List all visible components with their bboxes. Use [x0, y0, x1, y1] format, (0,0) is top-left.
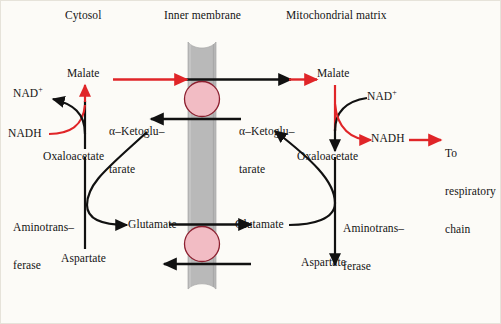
- respiratory-chain-line2: respiratory: [445, 185, 496, 198]
- matrix-label-nad-plus: NAD+: [367, 89, 397, 103]
- cytosol-label-aspartate: Aspartate: [61, 252, 106, 265]
- cytosol-nadh-curve: [49, 105, 85, 134]
- compartment-label-mitochondrial-matrix: Mitochondrial matrix: [286, 9, 387, 22]
- diagram-canvas: Cytosol Inner membrane Mitochondrial mat…: [0, 0, 501, 324]
- matrix-nad-plus-curve: [335, 98, 367, 131]
- matrix-nadh-curve: [335, 104, 371, 140]
- matrix-label-aminotransferase: Aminotrans– ferase: [343, 197, 404, 298]
- compartment-label-cytosol: Cytosol: [65, 9, 102, 22]
- respiratory-chain-line3: chain: [445, 223, 496, 236]
- matrix-label-glutamate: Glutamate: [235, 218, 284, 231]
- cytosol-label-malate: Malate: [67, 67, 100, 80]
- glutamate-aspartate-transporter: [185, 227, 220, 262]
- matrix-akg-line1: α–Ketoglu–: [239, 125, 295, 138]
- respiratory-chain-label: To respiratory chain: [445, 122, 496, 261]
- cytosol-label-glutamate: Glutamate: [128, 218, 177, 231]
- compartment-label-inner-membrane: Inner membrane: [164, 9, 241, 22]
- cytosol-label-aminotransferase: Aminotrans– ferase: [13, 196, 74, 297]
- cytosol-label-nad-plus: NAD+: [13, 86, 43, 100]
- cytosol-akg-line2: tarate: [109, 163, 165, 176]
- cytosol-nad-plus-text: NAD: [13, 87, 38, 99]
- cytosol-nad-plus-charge: +: [38, 85, 43, 94]
- cytosol-nad-plus-curve: [53, 99, 85, 134]
- matrix-nad-plus-charge: +: [392, 88, 397, 97]
- cytosol-label-oxaloacetate: Oxaloacetate: [43, 150, 104, 163]
- matrix-aminotransferase-line1: Aminotrans–: [343, 222, 404, 235]
- cytosol-aminotransferase-line1: Aminotrans–: [13, 221, 74, 234]
- respiratory-chain-line1: To: [445, 147, 496, 160]
- cytosol-akg-line1: α–Ketoglu–: [109, 125, 165, 138]
- matrix-label-oxaloacetate: Oxaloacetate: [297, 150, 358, 163]
- matrix-akg-line2: tarate: [239, 163, 295, 176]
- matrix-label-malate: Malate: [317, 67, 350, 80]
- malate-alpha-ketoglutarate-transporter: [185, 82, 220, 117]
- cytosol-label-nadh: NADH: [8, 127, 42, 140]
- matrix-aminotransferase-line2: ferase: [343, 260, 404, 273]
- matrix-label-aspartate: Aspartate: [301, 256, 346, 269]
- matrix-nad-plus-text: NAD: [367, 90, 392, 102]
- cytosol-label-alpha-ketoglutarate: α–Ketoglu– tarate: [109, 100, 165, 201]
- matrix-label-alpha-ketoglutarate: α–Ketoglu– tarate: [239, 100, 295, 201]
- matrix-label-nadh: NADH: [371, 132, 405, 145]
